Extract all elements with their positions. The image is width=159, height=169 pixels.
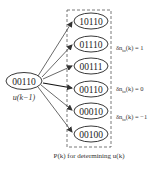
source-node-label: 00110: [12, 77, 36, 87]
candidate-node-5-label: 00010: [79, 107, 103, 117]
candidate-node-2: 01110: [74, 36, 108, 52]
candidate-node-6: 00100: [74, 126, 108, 142]
source-node: 00110: [6, 73, 42, 90]
arrow-to-node-2: [42, 45, 72, 77]
candidate-node-1: 10110: [74, 13, 108, 29]
candidate-node-5: 00010: [74, 103, 108, 119]
source-node-caption: u(k−1): [13, 93, 36, 102]
state-transition-diagram: 00110 u(k−1) 10110 01110 00111 00110 000…: [0, 0, 159, 169]
side-label-zero: δnto(k) = 0: [116, 85, 144, 94]
candidate-node-1-label: 10110: [79, 17, 103, 27]
side-label-minus-one: δnto(k) = −1: [116, 113, 147, 122]
arrow-to-node-3: [43, 66, 72, 79]
candidate-box-caption: P(k) for determining u(k): [54, 152, 126, 160]
candidate-node-4: 00110: [74, 81, 108, 97]
candidate-node-6-label: 00100: [79, 130, 103, 140]
candidate-node-3: 00111: [74, 58, 108, 74]
candidate-node-3-label: 00111: [79, 62, 102, 72]
candidate-node-2-label: 01110: [79, 40, 102, 50]
arrow-to-node-4: [43, 83, 72, 88]
side-label-plus-one: δnto(k) = 1: [116, 44, 144, 53]
candidate-node-4-label: 00110: [79, 85, 103, 95]
